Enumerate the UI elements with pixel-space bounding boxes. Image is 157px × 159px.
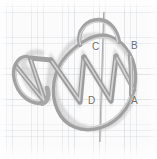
sketch-figure: A B C D [0,0,157,159]
point-label-a: A [131,96,138,106]
point-label-d: D [88,96,95,106]
vertical-axis-line [100,13,105,141]
point-label-c: C [92,42,99,52]
point-label-b: B [131,41,138,51]
sketch-drawing [0,0,157,159]
right-tail-segment [130,55,132,95]
